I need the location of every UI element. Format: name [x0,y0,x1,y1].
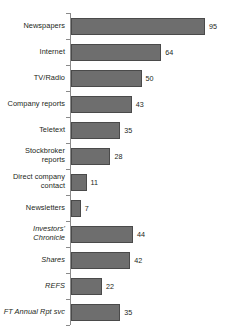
bar-value-label: 35 [124,308,132,317]
bar [71,18,205,35]
bar [71,252,130,269]
bar-category-label: Shares [1,256,65,265]
bar-container: 43 [71,96,144,113]
bar-category-label: TV/Radio [1,74,65,83]
bar [71,96,132,113]
bar [71,226,133,243]
bar-container: 11 [71,174,98,191]
bar-container: 42 [71,252,142,269]
bar-value-label: 95 [209,22,217,31]
bar-value-label: 43 [136,100,144,109]
bar [71,200,81,217]
bar-category-label: Newspapers [1,22,65,31]
bar-row: REFS22 [0,273,231,299]
bar [71,304,120,321]
plot-area: Newspapers95Internet64TV/Radio50Company … [0,0,231,332]
bar [71,122,120,139]
bar-value-label: 11 [91,178,98,187]
bar-row: TV/Radio50 [0,65,231,91]
bar-value-label: 35 [124,126,132,135]
bar-value-label: 50 [146,74,154,83]
bar [71,278,102,295]
bar-container: 95 [71,18,217,35]
bar-value-label: 44 [137,230,145,239]
bar-row: Direct company contact11 [0,169,231,195]
bar-container: 35 [71,122,132,139]
bar-row: Shares42 [0,247,231,273]
bar-container: 22 [71,278,114,295]
bar-container: 35 [71,304,132,321]
bar-value-label: 22 [106,282,114,291]
bar-value-label: 28 [114,152,122,161]
bar-category-label: Newsletters [1,204,65,213]
axis-tick [66,325,70,326]
bar-value-label: 7 [85,204,89,213]
bar [71,70,142,87]
bar-container: 50 [71,70,154,87]
bar-row: Investors' Chronicle44 [0,221,231,247]
bar-category-label: REFS [1,282,65,291]
bar-value-label: 42 [134,256,142,265]
bar-value-label: 64 [165,48,173,57]
bar-chart: Newspapers95Internet64TV/Radio50Company … [0,0,231,332]
bar-row: Newspapers95 [0,13,231,39]
bar [71,148,110,165]
bar-category-label: Direct company contact [1,173,65,190]
bar-row: Newsletters7 [0,195,231,221]
bar-container: 28 [71,148,122,165]
bar-container: 64 [71,44,173,61]
bar-category-label: Company reports [1,100,65,109]
bar-container: 44 [71,226,145,243]
bar [71,174,87,191]
bar-row: Teletext35 [0,117,231,143]
bar [71,44,161,61]
bar-row: FT Annual Rpt svc35 [0,299,231,325]
bar-row: Stockbroker reports28 [0,143,231,169]
bar-category-label: Internet [1,48,65,57]
bar-category-label: Teletext [1,126,65,135]
bar-row: Internet64 [0,39,231,65]
bar-container: 7 [71,200,89,217]
bar-category-label: Investors' Chronicle [1,225,65,242]
bar-row: Company reports43 [0,91,231,117]
bar-category-label: FT Annual Rpt svc [1,308,65,317]
bar-category-label: Stockbroker reports [1,147,65,164]
